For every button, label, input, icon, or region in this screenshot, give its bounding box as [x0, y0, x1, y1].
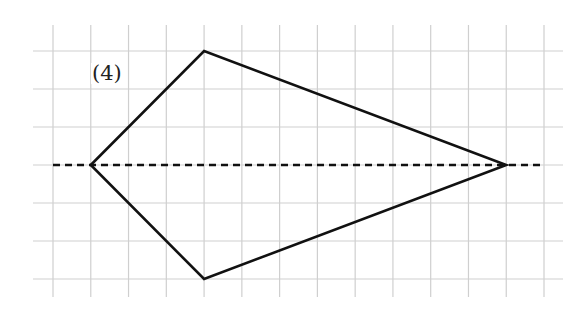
grid-diagram — [0, 0, 588, 315]
problem-number-label: (4) — [91, 63, 123, 84]
